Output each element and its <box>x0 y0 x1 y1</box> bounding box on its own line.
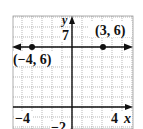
coordinate-plane: (3, 6) (−4, 6) 7 y −4 4 x −2 <box>0 0 143 129</box>
x-tick-neg4: −4 <box>15 111 30 126</box>
y-tick-neg2: −2 <box>51 120 66 129</box>
point-neg4-6 <box>29 44 35 50</box>
x-tick-4: 4 <box>111 111 118 126</box>
point-label-3-6: (3, 6) <box>95 23 126 39</box>
y-tick-7: 7 <box>62 28 69 43</box>
y-axis-label: y <box>60 13 68 27</box>
x-axis-label: x <box>123 111 131 126</box>
point-3-6 <box>100 44 106 50</box>
point-label-neg4-6: (−4, 6) <box>13 52 52 68</box>
